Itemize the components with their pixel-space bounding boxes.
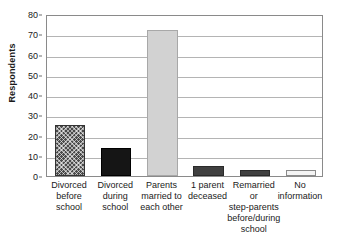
bar (55, 125, 85, 176)
bars-layer (47, 16, 322, 176)
y-axis-tick-mark (39, 55, 42, 56)
x-axis-category-label-line: information (271, 191, 328, 202)
y-axis-tick-mark (39, 116, 42, 117)
x-axis-category-label-line: school (225, 224, 282, 235)
y-axis-tick-label: 0 (33, 173, 38, 182)
bar (286, 170, 316, 176)
x-axis-category-label-line: before/during (225, 213, 282, 224)
y-axis-tick-mark (39, 156, 42, 157)
y-axis-tick-label: 80 (28, 11, 38, 20)
y-axis-tick-mark (39, 177, 42, 178)
bar-chart: Respondents 01020304050607080 Divorcedbe… (0, 0, 337, 244)
y-axis-tick-label: 50 (28, 71, 38, 80)
y-axis-tick-labels: 01020304050607080 (0, 15, 42, 177)
y-axis-tick-mark (39, 96, 42, 97)
bar (147, 30, 177, 176)
y-axis-tick-mark (39, 75, 42, 76)
x-axis-category-label-line: each other (133, 202, 190, 213)
y-axis-tick-mark (39, 136, 42, 137)
x-axis-category-labels: DivorcedbeforeschoolDivorcedduringschool… (46, 180, 323, 242)
plot-area (46, 15, 323, 177)
bar (193, 166, 223, 176)
x-axis-category-label-line: step-parents (225, 202, 282, 213)
y-axis-tick-label: 60 (28, 51, 38, 60)
x-axis-category-label-line: No (271, 180, 328, 191)
y-axis-tick-label: 70 (28, 31, 38, 40)
y-axis-tick-label: 10 (28, 152, 38, 161)
y-axis-tick-label: 20 (28, 132, 38, 141)
bar (240, 170, 270, 176)
x-axis-category-label: Noinformation (271, 180, 328, 202)
y-axis-tick-mark (39, 35, 42, 36)
y-axis-tick-label: 40 (28, 92, 38, 101)
y-axis-tick-label: 30 (28, 112, 38, 121)
bar (101, 148, 131, 176)
y-axis-tick-mark (39, 15, 42, 16)
